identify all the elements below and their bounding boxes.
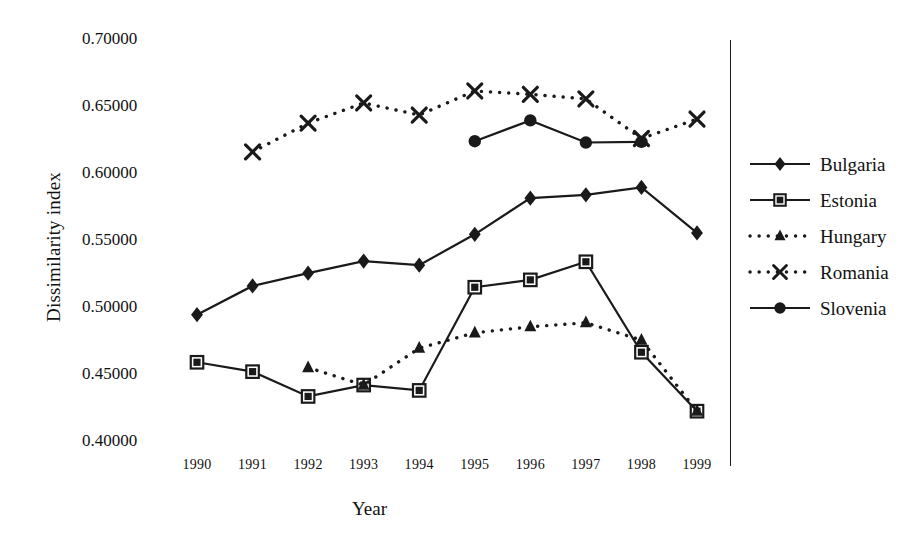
- x-tick-label: 1999: [682, 458, 711, 472]
- legend-marker-square-icon: [748, 190, 812, 210]
- data-point-marker: [469, 326, 481, 338]
- x-tick-label: 1991: [238, 458, 267, 472]
- data-point-marker: [413, 341, 425, 353]
- series-line: [475, 120, 642, 142]
- data-point-marker: [469, 281, 482, 294]
- series-line: [197, 262, 697, 411]
- data-point-marker: [524, 274, 537, 287]
- x-tick-label: 1992: [294, 458, 323, 472]
- data-point-marker: [302, 361, 314, 373]
- legend-marker-triangle-icon: [748, 226, 812, 246]
- data-point-marker: [246, 365, 258, 378]
- data-point-marker: [302, 390, 315, 403]
- data-point-marker: [524, 114, 536, 126]
- series-hungary: [302, 316, 703, 416]
- data-point-marker: [469, 227, 481, 242]
- series-line: [308, 323, 697, 411]
- legend-item-bulgaria[interactable]: Bulgaria: [748, 146, 916, 182]
- legend-label: Slovenia: [820, 299, 887, 318]
- data-point-marker: [636, 180, 648, 195]
- data-point-marker: [301, 116, 315, 130]
- x-axis-title: Year: [0, 498, 739, 520]
- legend-divider: [730, 40, 731, 466]
- legend-item-estonia[interactable]: Estonia: [748, 182, 916, 218]
- legend-marker-cross-icon: [748, 262, 812, 282]
- legend-item-slovenia[interactable]: Slovenia: [748, 290, 916, 326]
- data-point-marker: [302, 266, 314, 281]
- legend-item-hungary[interactable]: Hungary: [748, 218, 916, 254]
- chart-figure: Dissimilarity index 0.700000.650000.6000…: [0, 0, 919, 548]
- data-point-marker: [635, 333, 647, 345]
- data-point-marker: [691, 225, 703, 240]
- data-point-marker: [524, 191, 536, 206]
- data-point-marker: [468, 84, 482, 98]
- legend-marker-circle-icon: [748, 298, 812, 318]
- data-point-marker: [247, 278, 259, 293]
- x-tick-label: 1998: [627, 458, 656, 472]
- series-bulgaria: [191, 180, 703, 323]
- x-tick-label: 1990: [182, 458, 211, 472]
- chart-legend: BulgariaEstoniaHungaryRomaniaSlovenia: [748, 146, 916, 326]
- legend-label: Bulgaria: [820, 155, 885, 174]
- series-romania: [246, 84, 704, 159]
- data-point-marker: [191, 356, 204, 369]
- data-point-marker: [413, 258, 425, 273]
- data-point-marker: [191, 307, 203, 322]
- data-point-marker: [580, 316, 592, 328]
- data-point-marker: [635, 136, 647, 148]
- legend-item-romania[interactable]: Romania: [748, 254, 916, 290]
- data-point-marker: [635, 346, 648, 359]
- data-point-marker: [580, 136, 592, 148]
- x-tick-label: 1996: [516, 458, 545, 472]
- data-point-marker: [580, 187, 592, 202]
- x-tick-label: 1995: [460, 458, 489, 472]
- data-point-marker: [246, 145, 260, 159]
- legend-marker-diamond-icon: [748, 154, 812, 174]
- data-point-marker: [469, 135, 481, 147]
- data-point-marker: [524, 320, 536, 332]
- legend-label: Romania: [820, 263, 889, 282]
- legend-label: Estonia: [820, 191, 877, 210]
- series-slovenia: [469, 114, 648, 149]
- data-point-marker: [358, 254, 370, 269]
- x-tick-label: 1997: [571, 458, 600, 472]
- data-point-marker: [580, 256, 593, 269]
- x-tick-label: 1993: [349, 458, 378, 472]
- x-tick-label: 1994: [405, 458, 434, 472]
- series-line: [197, 187, 697, 314]
- legend-label: Hungary: [820, 227, 886, 246]
- data-point-marker: [413, 384, 426, 397]
